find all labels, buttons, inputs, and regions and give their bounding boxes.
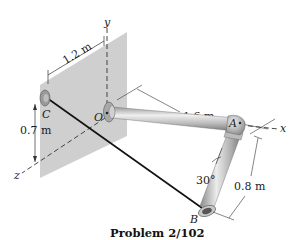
flange-o-hub: [109, 106, 115, 119]
figure-caption: Problem 2/102: [110, 226, 204, 240]
point-a-label: A: [228, 117, 237, 130]
dim-0-7m-arrow-bottom: [33, 156, 37, 162]
pipe-oa: [112, 107, 236, 131]
dim-0-8m-line-b: [229, 196, 245, 218]
z-axis-label: z: [13, 169, 20, 182]
pipe-ab: [200, 132, 241, 210]
point-b-label: B: [189, 213, 198, 226]
dim-1-6m-line-a: [137, 89, 180, 112]
dim-0-7m-label: 0.7 m: [20, 124, 52, 137]
point-o-label: O: [94, 111, 103, 124]
point-c-label: C: [42, 108, 51, 121]
bracket-c-inner: [44, 94, 49, 102]
dim-0-8m-ext-bottom: [213, 212, 234, 220]
point-o-dot: [106, 112, 109, 115]
y-axis-label: y: [103, 16, 111, 29]
x-axis-label: x: [280, 122, 287, 135]
angle-30-label: 30°: [196, 174, 216, 187]
point-a-dot: [239, 122, 241, 124]
dim-0-7m-arrow-top: [33, 104, 37, 110]
dim-0-8m-line-a: [251, 138, 258, 176]
problem-diagram: y z 1.2 m 0.7 m 1.6 m C O x A B 30°: [0, 0, 299, 240]
dim-0-8m-label: 0.8 m: [234, 180, 266, 193]
